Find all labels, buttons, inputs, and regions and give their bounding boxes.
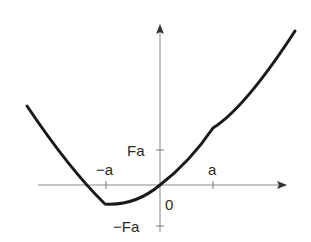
label-neg-a: −a [96,162,113,177]
diagram-canvas [0,0,311,242]
label-neg-Fa: −Fa [113,219,139,234]
label-Fa: Fa [127,143,145,158]
label-origin: 0 [165,197,173,212]
function-curve [27,31,295,204]
label-pos-a: a [208,162,216,177]
